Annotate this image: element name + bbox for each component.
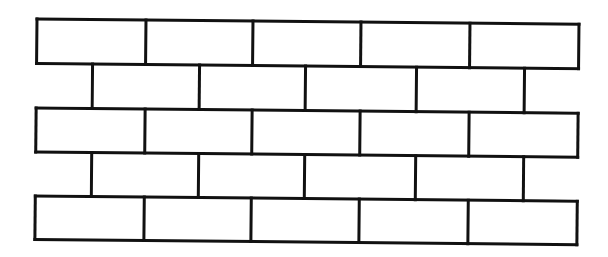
course-line-4 [35,196,577,201]
course-line-3 [36,152,578,157]
course-line-5 [35,239,577,244]
offset-course-gap [33,65,90,106]
offset-course-gap [526,70,581,111]
course-line-2 [36,108,578,113]
course-line-1 [37,63,579,68]
offset-course-gap [525,159,580,200]
course-line-0 [37,19,579,24]
brick-wall [32,19,582,245]
offset-course-gap [32,154,89,195]
brick-wall-diagram [0,0,608,257]
